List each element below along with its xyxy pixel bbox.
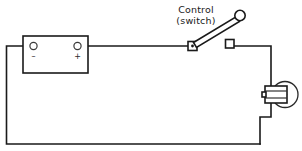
control-label-line2: (switch) bbox=[176, 15, 215, 26]
circuit-schematic-canvas: – + bbox=[0, 0, 302, 151]
lamp-symbol bbox=[262, 82, 298, 108]
switch-output-terminal[interactable] bbox=[226, 40, 235, 49]
control-label-line1: Control bbox=[178, 4, 214, 15]
lamp-connector-tab bbox=[262, 92, 266, 97]
circuit-diagram: – + bbox=[0, 0, 302, 151]
battery-positive-terminal bbox=[74, 42, 81, 49]
battery-positive-label: + bbox=[74, 52, 81, 61]
battery-symbol: – + bbox=[23, 36, 88, 73]
control-switch-annotation: Control (switch) bbox=[176, 4, 215, 26]
lamp-housing bbox=[265, 86, 287, 103]
battery-negative-label: – bbox=[32, 52, 36, 61]
wire-lamp-ground bbox=[260, 103, 271, 144]
wire-switch-to-lamp bbox=[230, 46, 271, 88]
battery-negative-terminal bbox=[30, 42, 37, 49]
switch-knob[interactable] bbox=[235, 10, 245, 20]
switch-pivot-dot bbox=[191, 45, 194, 48]
